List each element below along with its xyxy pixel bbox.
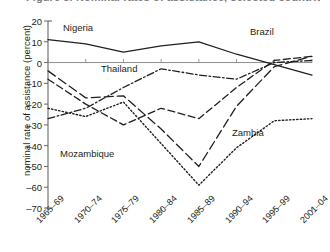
series-label-zambia: Zambia xyxy=(232,127,264,138)
series-label-brazil: Brazil xyxy=(250,26,274,37)
series-label-nigeria: Nigeria xyxy=(63,22,93,33)
series-label-mozambique: Mozambique xyxy=(60,148,114,159)
series-label-thailand: Thailand xyxy=(101,63,137,74)
